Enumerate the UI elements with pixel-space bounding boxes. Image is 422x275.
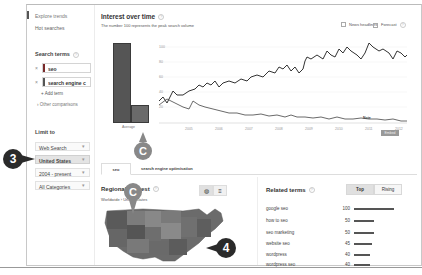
interest-over-time-title: Interest over time? [101,13,164,20]
y-tick-60: 60 [159,75,163,79]
forecast-checkbox[interactable]: Forecast? [373,22,406,28]
callout-c-map: C [124,183,142,201]
map-view-button[interactable]: ◍ [199,185,213,196]
x-tick: 2008 [275,127,283,131]
region-dropdown[interactable]: United States ▾ [35,155,90,164]
remove-term-icon[interactable]: × [35,79,38,85]
term-color-swatch [43,78,45,86]
x-tick: 2006 [215,127,223,131]
callout-c-chart: C [134,142,152,160]
related-term-value: 100 [336,206,350,211]
search-terms-heading-text: Search terms [35,51,70,57]
news-headlines-checkbox[interactable]: News headlines [341,22,377,27]
search-term-input[interactable]: search engine c [42,77,91,87]
tab-seo[interactable]: seo [101,163,131,175]
add-term-link[interactable]: + Add term [41,91,63,96]
related-term-text: wordpress [266,252,287,257]
limit-to-heading: Limit to [35,129,55,135]
dropdown-value: Web Search [39,145,66,151]
time-range-dropdown[interactable]: 2004 - present ▾ [35,168,90,177]
nav-explore-trends[interactable]: Explore trends [35,13,67,19]
x-tick: 2010 [335,127,343,131]
rising-toggle-button[interactable]: Rising [374,184,402,195]
y-tick-80: 80 [159,60,163,64]
list-icon: ≡ [218,188,222,194]
related-term-value: 40 [336,252,350,257]
related-terms-title: Related terms? [266,187,315,193]
bottom-divider [0,267,422,268]
related-term-bar [354,232,374,234]
tab-search-engine-optimisation[interactable]: search engine optimisation [135,163,199,175]
y-tick-20: 20 [159,105,163,109]
globe-icon: ◍ [204,188,209,194]
related-term-bar [354,264,370,266]
term-tabs: seo search engine optimisation [101,163,417,175]
related-term-row[interactable]: seo marketing 50 [266,229,416,239]
regional-breadcrumb[interactable]: Worldwide › United States [101,197,147,202]
related-term-text: how to seo [266,218,288,223]
x-tick: 2009 [305,127,313,131]
search-type-dropdown[interactable]: Web Search ▾ [35,142,90,151]
search-term-search-engine: × search engine c [35,77,91,87]
y-tick-40: 40 [159,90,163,94]
search-term-seo: × seo [35,63,91,73]
interest-title-text: Interest over time [101,13,155,20]
related-term-row[interactable]: wordpress 40 [266,251,416,261]
callout-4-pointer [206,244,218,252]
checkbox-icon [373,23,378,28]
top-toggle-button[interactable]: Top [346,184,374,195]
remove-term-icon[interactable]: × [35,65,38,71]
trends-page: Explore trends Hot searches Search terms… [26,4,422,266]
x-tick: 2007 [245,127,253,131]
callout-3-pointer [21,155,35,163]
embed-button[interactable]: Embed [381,130,399,136]
checkbox-label: Forecast [381,22,397,27]
category-dropdown[interactable]: All Categories ▾ [35,181,90,190]
help-icon[interactable]: ? [73,52,79,58]
search-term-text: search engine c [48,80,90,86]
checkbox-icon [341,22,346,27]
chevron-down-icon: ▾ [82,170,85,175]
dropdown-value: United States [39,158,71,164]
sidebar: Explore trends Hot searches Search terms… [27,5,95,265]
related-terms-panel: Related terms? Top Rising google seo 100… [257,177,419,265]
callout-c-map-pointer [129,200,137,214]
related-term-bar [354,243,372,245]
nav-hot-searches[interactable]: Hot searches [35,25,64,31]
chevron-down-icon: ▾ [82,157,85,162]
interest-subtitle: The number 100 represents the peak searc… [101,23,194,28]
x-tick: 2011 [365,127,373,131]
related-term-row[interactable]: wordpress seo 40 [266,261,416,271]
help-icon[interactable]: ? [153,186,159,192]
help-icon[interactable]: ? [400,22,406,28]
interest-chart: Average 100 80 60 40 20 2005 2006 2007 2… [101,33,417,143]
search-terms-heading: Search terms? [35,51,79,58]
dropdown-value: All Categories [39,184,70,190]
related-term-row[interactable]: how to seo 50 [266,217,416,227]
callout-4: 4 [216,238,236,258]
help-icon[interactable]: ? [158,14,164,20]
list-view-button[interactable]: ≡ [213,185,227,196]
search-term-input[interactable]: seo [42,63,91,73]
related-term-text: seo marketing [266,230,294,235]
other-comparisons-link[interactable]: › Other comparisons [37,102,78,107]
active-indicator [27,11,29,19]
related-term-bar [354,220,374,222]
chevron-down-icon: ▾ [82,144,85,149]
callout-c-chart-pointer [139,132,147,142]
x-tick: 2005 [185,127,193,131]
related-term-value: 50 [336,218,350,223]
search-term-text: seo [48,66,90,72]
related-term-row[interactable]: website seo 45 [266,240,416,250]
related-term-value: 50 [336,230,350,235]
help-icon[interactable]: ? [309,187,315,193]
callout-3: 3 [3,149,23,169]
related-term-text: google seo [266,206,288,211]
y-tick-100: 100 [159,45,165,49]
related-term-row[interactable]: google seo 100 [266,205,416,215]
note-annotation[interactable]: Note [363,116,371,120]
related-term-bar [354,208,394,210]
related-term-value: 45 [336,241,350,246]
related-term-text: website seo [266,241,290,246]
related-term-bar [354,254,370,256]
